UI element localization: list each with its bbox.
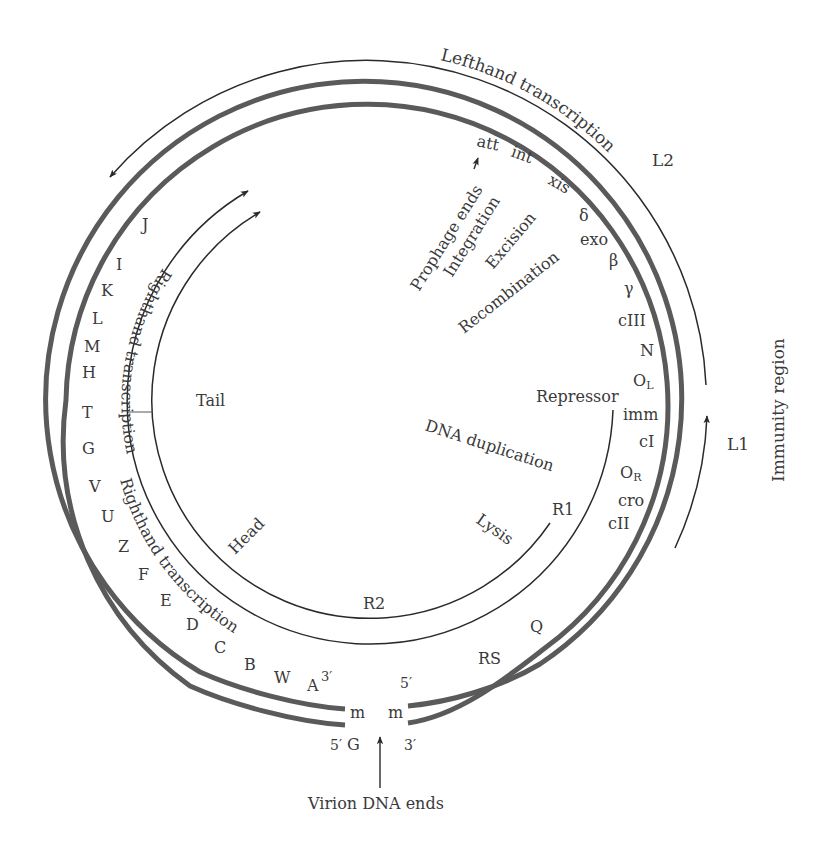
right-m-label: m xyxy=(388,703,403,722)
gene-cro: cro xyxy=(618,491,644,510)
gene-V: V xyxy=(88,477,101,496)
gene-cII: cII xyxy=(608,514,630,533)
gene-G: G xyxy=(82,439,95,458)
five-prime-left-bottom: 5′ xyxy=(330,737,342,753)
left-m-label: m xyxy=(350,703,365,722)
gene-I: I xyxy=(116,255,122,274)
righthand-transcription-label-1: Righthand transcription xyxy=(117,266,175,456)
gene-A: A xyxy=(306,676,319,695)
virion-dna-ends-label: Virion DNA ends xyxy=(307,794,444,813)
gene-Z: Z xyxy=(118,537,129,556)
immunity-region-label: Immunity region xyxy=(768,338,788,482)
gene-cIII: cIII xyxy=(618,311,646,330)
l2-label: L2 xyxy=(652,150,674,170)
three-prime-right-bottom: 3′ xyxy=(404,737,416,753)
five-prime-right-top: 5′ xyxy=(400,675,412,691)
gene-cI: cI xyxy=(639,432,654,451)
head-label: Head xyxy=(224,514,268,558)
lambda-map-diagram: Lefthand transcription L2 L1 Immunity re… xyxy=(0,0,832,865)
prophage-ends-arrow xyxy=(474,158,478,169)
gene-imm: imm xyxy=(623,405,658,424)
gene-gamma: γ xyxy=(624,279,634,298)
three-prime-left: 3′ xyxy=(321,669,332,684)
gene-xis: xis xyxy=(545,170,574,198)
r2-label: R2 xyxy=(363,594,385,613)
dna-duplication-label: DNA duplication xyxy=(423,416,557,476)
gene-M: M xyxy=(84,337,100,356)
righthand-transcription-label-2: Righthand transcription xyxy=(116,476,242,637)
gene-U: U xyxy=(101,507,114,526)
gene-exo: exo xyxy=(580,230,608,249)
gene-H: H xyxy=(82,363,96,382)
recombination-label: Recombination xyxy=(455,247,563,337)
gene-L: L xyxy=(92,309,103,328)
gene-N: N xyxy=(640,341,654,360)
l1-label: L1 xyxy=(727,434,749,454)
gene-delta: δ xyxy=(579,206,589,225)
lysis-label: Lysis xyxy=(473,510,517,549)
gene-K: K xyxy=(101,281,114,300)
tail-label: Tail xyxy=(196,391,225,410)
righthand-transcription-inner-arrow xyxy=(152,212,550,618)
g-label: G xyxy=(347,735,360,754)
repressor-label: Repressor xyxy=(536,387,619,406)
gene-att: att xyxy=(475,131,501,154)
gene-J: J xyxy=(140,215,148,234)
r1-label: R1 xyxy=(552,500,574,519)
gene-OR: OR xyxy=(620,463,642,484)
left-gene-labels: J I K L M H T G V U Z F E D C B W A 3′ xyxy=(82,215,332,695)
gene-F: F xyxy=(138,565,149,584)
gene-B: B xyxy=(244,655,256,674)
gene-int: int xyxy=(509,142,537,168)
gene-RS: RS xyxy=(478,649,501,668)
gene-OL: OL xyxy=(633,371,654,392)
gene-D: D xyxy=(186,615,199,634)
gene-Q: Q xyxy=(530,617,543,636)
gene-T: T xyxy=(82,403,93,422)
gene-W: W xyxy=(274,668,291,687)
gene-E: E xyxy=(160,591,172,610)
gene-beta: β xyxy=(609,251,618,270)
gene-C: C xyxy=(214,638,226,657)
